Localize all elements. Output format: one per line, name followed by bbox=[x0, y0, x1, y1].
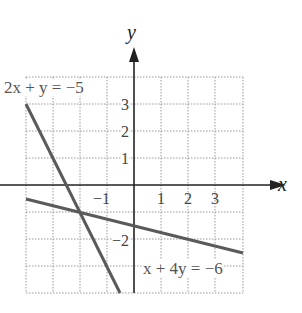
y-tick-1: 1 bbox=[121, 151, 129, 167]
y-axis-label: y bbox=[127, 22, 136, 42]
x-tick-neg1: −1 bbox=[93, 191, 110, 207]
equation-label-2: x + 4y = −6 bbox=[143, 260, 223, 277]
x-tick-3: 3 bbox=[211, 191, 219, 207]
x-tick-1: 1 bbox=[157, 191, 165, 207]
equation-label-1: 2x + y = −5 bbox=[4, 79, 84, 96]
y-tick-neg2: −2 bbox=[112, 233, 129, 249]
y-axis-arrow-icon bbox=[129, 47, 139, 62]
x-tick-2: 2 bbox=[184, 191, 192, 207]
y-tick-3: 3 bbox=[121, 97, 129, 113]
x-axis-label: x bbox=[278, 174, 287, 194]
y-tick-2: 2 bbox=[121, 124, 129, 140]
